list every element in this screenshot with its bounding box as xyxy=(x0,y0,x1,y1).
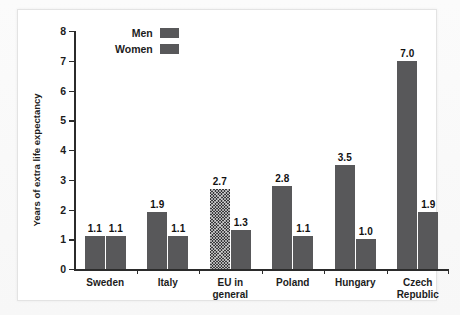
bar-women-3: 1.1 xyxy=(293,236,313,269)
bar-women-4: 1.0 xyxy=(356,239,376,269)
bar-value-label: 1.1 xyxy=(88,223,102,234)
bar-value-label: 7.0 xyxy=(400,48,414,59)
x-category-label: EU in general xyxy=(212,277,248,301)
x-category-label: Italy xyxy=(158,277,178,289)
y-axis-title: Years of extra life expectancy xyxy=(31,93,42,226)
bar-group: 2.81.1Poland xyxy=(272,31,313,269)
x-tick-5 xyxy=(387,269,388,274)
y-tick-label-2: 2 xyxy=(60,204,66,216)
y-tick-7 xyxy=(69,61,74,62)
y-axis-line xyxy=(74,31,76,269)
x-category-label: Sweden xyxy=(86,277,124,289)
y-tick-3 xyxy=(69,180,74,181)
chart-card: Years of extra life expectancy Men Women… xyxy=(17,9,437,301)
x-tick-4 xyxy=(324,269,325,274)
bar-men-1: 1.9 xyxy=(147,212,167,269)
x-tick-end xyxy=(448,269,449,274)
bar-women-2: 1.3 xyxy=(231,230,251,269)
y-tick-0 xyxy=(69,269,74,270)
bar-group: 3.51.0Hungary xyxy=(335,31,376,269)
y-tick-label-6: 6 xyxy=(60,85,66,97)
bar-value-label: 2.7 xyxy=(213,176,227,187)
bar-women-5: 1.9 xyxy=(418,212,438,269)
bar-value-label: 1.9 xyxy=(421,199,435,210)
y-tick-2 xyxy=(69,210,74,211)
bar-group: 1.11.1Sweden xyxy=(85,31,126,269)
y-tick-8 xyxy=(69,31,74,32)
y-tick-5 xyxy=(69,120,74,121)
bar-men-5: 7.0 xyxy=(397,61,417,269)
bar-value-label: 1.0 xyxy=(359,226,373,237)
bar-value-label: 1.1 xyxy=(171,223,185,234)
bar-men-2: 2.7 xyxy=(210,189,230,269)
bar-group: 2.71.3EU in general xyxy=(210,31,251,269)
y-tick-label-1: 1 xyxy=(60,233,66,245)
y-tick-label-7: 7 xyxy=(60,55,66,67)
plot-area: 012345678 1.11.1Sweden1.91.1Italy2.71.3E… xyxy=(74,31,449,269)
y-tick-label-5: 5 xyxy=(60,114,66,126)
y-tick-label-4: 4 xyxy=(60,144,66,156)
bar-men-3: 2.8 xyxy=(272,186,292,269)
y-tick-1 xyxy=(69,239,74,240)
bar-value-label: 1.1 xyxy=(109,223,123,234)
bar-group: 7.01.9Czech Republic xyxy=(397,31,438,269)
bar-value-label: 1.9 xyxy=(150,199,164,210)
x-tick-3 xyxy=(262,269,263,274)
chart-figure: Years of extra life expectancy Men Women… xyxy=(0,0,460,315)
bar-value-label: 3.5 xyxy=(338,152,352,163)
y-tick-label-0: 0 xyxy=(60,263,66,275)
y-tick-6 xyxy=(69,91,74,92)
y-tick-label-3: 3 xyxy=(60,174,66,186)
bar-group: 1.91.1Italy xyxy=(147,31,188,269)
bar-value-label: 2.8 xyxy=(275,173,289,184)
y-tick-4 xyxy=(69,150,74,151)
bar-women-0: 1.1 xyxy=(106,236,126,269)
bar-women-1: 1.1 xyxy=(168,236,188,269)
x-tick-1 xyxy=(137,269,138,274)
x-category-label: Czech Republic xyxy=(397,277,439,301)
bar-men-4: 3.5 xyxy=(335,165,355,269)
x-tick-2 xyxy=(199,269,200,274)
bar-value-label: 1.3 xyxy=(234,217,248,228)
y-tick-label-8: 8 xyxy=(60,25,66,37)
x-category-label: Poland xyxy=(276,277,309,289)
bar-value-label: 1.1 xyxy=(296,223,310,234)
x-category-label: Hungary xyxy=(335,277,376,289)
bar-men-0: 1.1 xyxy=(85,236,105,269)
